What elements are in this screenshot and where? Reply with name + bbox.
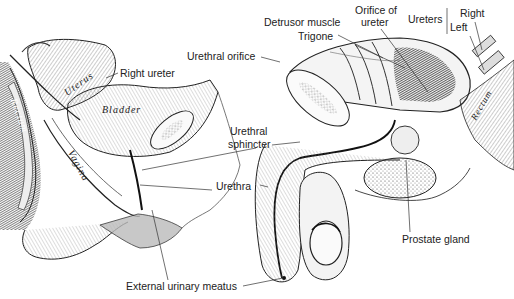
label-orifice-of-ureter-1: Orifice of: [355, 5, 397, 16]
label-prostate-gland: Prostate gland: [402, 234, 470, 245]
label-urethral-orifice: Urethral orifice: [187, 51, 255, 62]
label-urethral-sphincter-2: sphincter: [228, 139, 271, 150]
label-trigone: Trigone: [298, 31, 333, 42]
anatomy-figure: Uterus Bladder Vagina Rectum Rectum Righ…: [0, 0, 514, 299]
male-section: [255, 35, 514, 282]
label-ureters: Ureters: [408, 14, 442, 25]
label-orifice-of-ureter-2: ureter: [361, 17, 388, 28]
label-right-ureter: Right ureter: [120, 68, 175, 79]
label-ureter-right: Right: [460, 8, 485, 19]
label-urethra: Urethra: [216, 181, 251, 192]
label-external-urinary-meatus: External urinary meatus: [126, 281, 237, 292]
label-urethral-sphincter-1: Urethral: [230, 126, 267, 137]
bladder-inline-label: Bladder: [102, 104, 141, 115]
label-ureter-left: Left: [450, 22, 468, 33]
label-detrusor-muscle: Detrusor muscle: [264, 17, 340, 28]
